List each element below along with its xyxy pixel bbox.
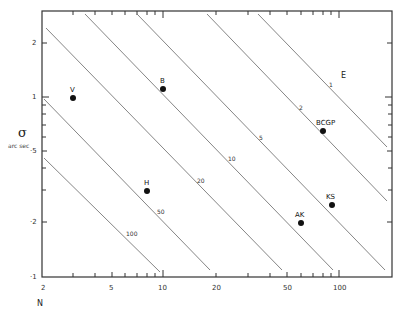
point-v	[70, 95, 76, 101]
scatter-chart: 2 5 10 20 50 100 ·1 ·2 ·5 1 2 N σ arc se…	[0, 0, 400, 313]
point-ak	[298, 220, 304, 226]
x-axis-title: N	[37, 299, 43, 308]
y-tick-1: 1	[32, 93, 36, 101]
isoline-label-100: 100	[126, 230, 138, 237]
y-tick-2: 2	[32, 39, 36, 47]
isoline-100	[44, 158, 160, 272]
y-tick-0.2: ·2	[30, 218, 37, 226]
x-tick-10: 10	[158, 284, 167, 292]
x-tick-100: 100	[333, 284, 346, 292]
point-label-ks: KS	[326, 193, 336, 201]
point-ks	[329, 202, 335, 208]
region-label-e: E	[341, 71, 346, 80]
y-ticks-left	[42, 43, 49, 222]
y-tick-0.5: ·5	[30, 147, 37, 155]
x-tick-50: 50	[283, 284, 292, 292]
y-axis-unit: arc sec	[8, 142, 29, 149]
x-tick-20: 20	[212, 284, 221, 292]
isoline-50	[44, 99, 210, 270]
point-h	[144, 188, 150, 194]
data-points: V B H BCGP KS AK	[70, 77, 336, 226]
isoline-2	[207, 14, 387, 201]
isoline-label-20: 20	[197, 177, 205, 184]
point-bcgp	[320, 128, 326, 134]
y-tick-labels: ·1 ·2 ·5 1 2	[30, 39, 37, 281]
plot-frame	[42, 11, 392, 277]
y-axis-symbol: σ	[18, 125, 27, 140]
isoline-label-50: 50	[157, 208, 165, 215]
x-ticks-bottom	[73, 270, 339, 277]
x-tick-labels: 2 5 10 20 50 100	[41, 284, 346, 292]
y-tick-0.1: ·1	[30, 273, 37, 281]
y-ticks-right	[385, 43, 392, 222]
x-tick-5: 5	[109, 284, 113, 292]
isoline-20	[46, 28, 282, 270]
isoline-label-2: 2	[299, 104, 303, 111]
x-ticks-top	[73, 11, 339, 18]
point-label-h: H	[144, 179, 149, 187]
isoline-label-5: 5	[259, 134, 263, 141]
isolines	[44, 14, 387, 272]
x-tick-2: 2	[41, 284, 45, 292]
isoline-5	[137, 14, 385, 270]
point-label-b: B	[160, 77, 165, 85]
point-b	[160, 86, 166, 92]
point-label-v: V	[70, 86, 75, 94]
point-label-ak: AK	[295, 211, 305, 219]
isoline-label-1: 1	[329, 81, 333, 88]
isoline-1	[258, 14, 387, 147]
point-label-bcgp: BCGP	[316, 119, 335, 127]
isoline-label-10: 10	[228, 155, 236, 162]
